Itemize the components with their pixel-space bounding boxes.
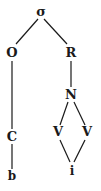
edge-vright-i <box>74 140 85 162</box>
syllable-tree-diagram: σ O R N C V V b i <box>0 0 101 191</box>
edge-root-rhyme <box>44 19 67 44</box>
edge-root-onset <box>16 19 38 44</box>
node-onset: O <box>6 45 17 60</box>
edge-vleft-i <box>60 140 70 162</box>
tree-nodes: σ O R N C V V b i <box>6 4 93 183</box>
edge-nucleus-vright <box>74 102 85 125</box>
node-nucleus: N <box>65 87 77 102</box>
node-vowel-right: V <box>81 124 93 139</box>
node-rhyme: R <box>66 45 77 60</box>
node-consonant: C <box>7 129 17 144</box>
edge-nucleus-vleft <box>60 102 68 125</box>
segment-b: b <box>8 169 16 183</box>
node-sigma: σ <box>36 4 46 19</box>
segment-i: i <box>70 164 75 178</box>
node-vowel-left: V <box>52 124 64 139</box>
